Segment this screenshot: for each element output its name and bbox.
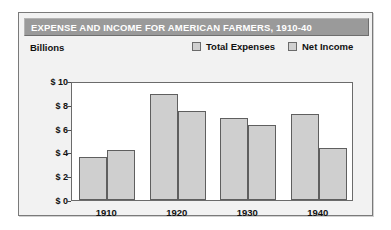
x-tick-label: 1930 <box>237 207 258 218</box>
chart-card: EXPENSE AND INCOME FOR AMERICAN FARMERS,… <box>18 12 373 216</box>
y-axis-units-label: Billions <box>30 42 64 53</box>
legend-item-total-expenses: Total Expenses <box>192 41 275 52</box>
y-tick-label: $ 8 <box>24 101 68 111</box>
x-tick-label: 1920 <box>166 207 187 218</box>
legend-swatch-icon <box>192 42 201 51</box>
legend-label-total-expenses: Total Expenses <box>206 41 275 52</box>
y-tick-label: $ 4 <box>24 148 68 158</box>
y-tick-label: $ 10 <box>24 77 68 87</box>
bar-1910-total-expenses <box>79 157 107 200</box>
legend-item-net-income: Net Income <box>288 41 353 52</box>
bar-1940-total-expenses <box>291 114 319 200</box>
chart-title-bar: EXPENSE AND INCOME FOR AMERICAN FARMERS,… <box>24 18 369 36</box>
legend-label-net-income: Net Income <box>302 41 353 52</box>
bar-1930-total-expenses <box>220 118 248 200</box>
y-tick-mark <box>67 201 71 202</box>
legend-swatch-icon <box>288 42 297 51</box>
bar-1910-net-income <box>107 150 135 200</box>
y-tick-label: $ 6 <box>24 125 68 135</box>
x-tick-label: 1910 <box>96 207 117 218</box>
y-tick-label: $ 0 <box>24 196 68 206</box>
chart-header-row: Billions Total Expenses Net Income <box>24 40 369 57</box>
x-tick-label: 1940 <box>307 207 328 218</box>
y-tick-label: $ 2 <box>24 172 68 182</box>
plot-area <box>71 82 353 201</box>
plot-frame: $ 10$ 8$ 6$ 4$ 2$ 0 1910192019301940 <box>24 58 369 212</box>
bars-layer <box>72 83 352 200</box>
bar-1940-net-income <box>319 148 347 200</box>
bar-1930-net-income <box>248 125 276 200</box>
chart-title: EXPENSE AND INCOME FOR AMERICAN FARMERS,… <box>25 22 312 33</box>
bar-1920-net-income <box>178 111 206 200</box>
bar-1920-total-expenses <box>150 94 178 200</box>
